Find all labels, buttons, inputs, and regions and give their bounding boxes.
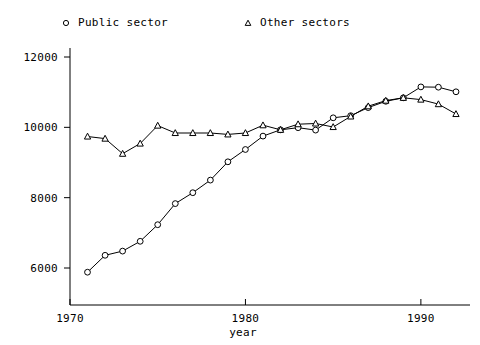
triangle-marker-icon <box>84 133 90 139</box>
y-axis-tick-label: 6000 <box>30 262 58 275</box>
circle-marker-icon <box>172 201 178 207</box>
circle-marker-icon <box>260 133 266 139</box>
x-axis-title: year <box>229 326 257 339</box>
circle-marker-icon <box>155 222 161 228</box>
circle-marker-icon <box>85 269 91 275</box>
y-axis-tick-label: 12000 <box>23 51 58 64</box>
series-other-sectors <box>84 94 459 156</box>
x-axis-tick-label: 1970 <box>56 312 84 325</box>
y-axis: 600080001000012000 <box>23 51 70 275</box>
y-axis-tick-label: 8000 <box>30 192 58 205</box>
circle-marker-icon <box>418 84 424 90</box>
chart-plot: 600080001000012000 197019801990 year <box>0 0 480 345</box>
series-public-sector <box>85 84 459 275</box>
circle-marker-icon <box>102 252 108 258</box>
circle-marker-icon <box>330 115 336 121</box>
circle-marker-icon <box>453 89 459 95</box>
circle-marker-icon <box>313 127 319 133</box>
data-series-group <box>84 84 459 275</box>
triangle-marker-icon <box>260 122 266 128</box>
circle-marker-icon <box>208 177 214 183</box>
series-line <box>88 87 457 272</box>
triangle-marker-icon <box>242 130 248 136</box>
x-axis: 197019801990 <box>56 299 435 325</box>
circle-marker-icon <box>137 238 143 244</box>
circle-marker-icon <box>120 248 126 254</box>
chart-container: Public sector Other sectors 600080001000… <box>0 0 480 345</box>
circle-marker-icon <box>190 190 196 196</box>
circle-marker-icon <box>225 159 231 165</box>
triangle-marker-icon <box>453 111 459 117</box>
x-axis-tick-label: 1980 <box>232 312 260 325</box>
x-axis-tick-label: 1990 <box>407 312 435 325</box>
triangle-marker-icon <box>155 122 161 128</box>
circle-marker-icon <box>243 147 249 153</box>
circle-marker-icon <box>436 84 442 90</box>
y-axis-tick-label: 10000 <box>23 121 58 134</box>
